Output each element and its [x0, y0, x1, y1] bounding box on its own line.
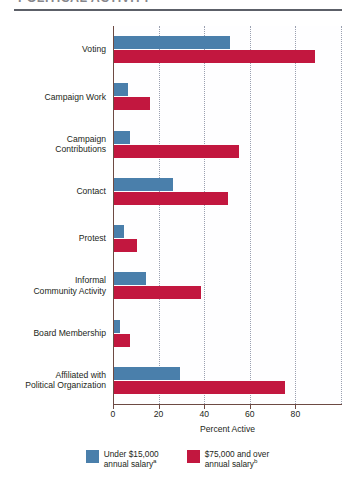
bar	[114, 286, 201, 299]
x-tick-label: 80	[275, 409, 315, 419]
legend-item: Under $15,000annual salarya	[86, 449, 159, 469]
bar-group	[114, 320, 341, 347]
bar-group	[114, 178, 341, 205]
category-label: Affiliated withPolitical Organization	[0, 370, 106, 391]
legend-label-line: annual salaryb	[205, 459, 270, 469]
legend-label: Under $15,000annual salarya	[104, 449, 159, 469]
chart-title: POLITICAL ACTIVITY	[18, 0, 151, 5]
political-activity-figure: POLITICAL ACTIVITY VotingCampaign WorkCa…	[0, 0, 355, 491]
legend-item: $75,000 and overannual salaryb	[187, 449, 270, 469]
category-label-line: Campaign Work	[0, 92, 106, 103]
category-label-line: Contact	[0, 186, 106, 197]
legend-footnote-marker: a	[153, 457, 156, 464]
bar	[114, 83, 128, 96]
bar	[114, 131, 130, 144]
x-axis-line	[113, 404, 342, 405]
category-label-line: Protest	[0, 233, 106, 244]
bar	[114, 320, 120, 333]
category-label: Campaign Work	[0, 92, 106, 103]
legend-label-line: annual salarya	[104, 459, 159, 469]
category-label: Protest	[0, 233, 106, 244]
bar-group	[114, 83, 341, 110]
legend-label: $75,000 and overannual salaryb	[205, 449, 270, 469]
bar	[114, 192, 228, 205]
category-label-line: Political Organization	[0, 380, 106, 391]
bar	[114, 36, 230, 49]
category-label: Board Membership	[0, 328, 106, 339]
category-label-line: Board Membership	[0, 328, 106, 339]
gridline-100	[341, 26, 342, 404]
category-label-line: Voting	[0, 44, 106, 55]
legend-label-line: $75,000 and over	[205, 449, 270, 459]
bar	[114, 367, 180, 380]
bar	[114, 381, 285, 394]
category-label: CampaignContributions	[0, 134, 106, 155]
category-label-line: Community Activity	[0, 286, 106, 297]
legend-label-line: Under $15,000	[104, 449, 159, 459]
category-label-line: Informal	[0, 275, 106, 286]
category-label-line: Campaign	[0, 134, 106, 145]
legend-swatch	[187, 450, 200, 463]
bar-group	[114, 225, 341, 252]
category-label-line: Contributions	[0, 144, 106, 155]
x-tick-label: 40	[184, 409, 224, 419]
category-label: InformalCommunity Activity	[0, 275, 106, 296]
bar	[114, 97, 150, 110]
x-tick-label: 60	[230, 409, 270, 419]
legend-swatch	[86, 450, 99, 463]
bar	[114, 225, 124, 238]
bar	[114, 178, 173, 191]
y-axis-line	[113, 26, 114, 404]
plot-area	[113, 26, 341, 404]
legend-footnote-marker: b	[254, 457, 257, 464]
x-tick-label: 20	[139, 409, 179, 419]
bar-group	[114, 36, 341, 63]
chart-legend: Under $15,000annual salarya$75,000 and o…	[0, 449, 355, 469]
bar-group	[114, 367, 341, 394]
x-axis-title: Percent Active	[113, 424, 342, 434]
bar	[114, 50, 315, 63]
category-label: Contact	[0, 186, 106, 197]
category-label: Voting	[0, 44, 106, 55]
bar	[114, 145, 239, 158]
title-divider	[14, 9, 342, 11]
bar	[114, 334, 130, 347]
bar-group	[114, 131, 341, 158]
bar-group	[114, 272, 341, 299]
x-tick-label: 0	[93, 409, 133, 419]
bar	[114, 239, 137, 252]
category-label-line: Affiliated with	[0, 370, 106, 381]
bar	[114, 272, 146, 285]
chart-title-clip: POLITICAL ACTIVITY	[0, 0, 355, 8]
